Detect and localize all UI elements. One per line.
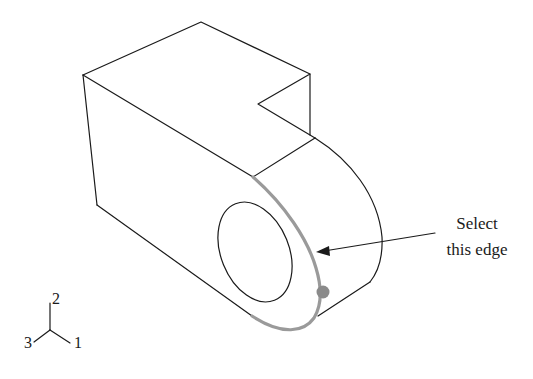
arrowhead-icon bbox=[316, 246, 330, 256]
axis-triad: 2 1 3 bbox=[24, 290, 82, 351]
callout-text-line1: Select bbox=[456, 214, 498, 233]
tangent-edge bbox=[253, 138, 315, 177]
selection-point-icon bbox=[317, 286, 330, 299]
callout: Select this edge bbox=[316, 214, 507, 259]
bottom-edge bbox=[97, 205, 252, 316]
triad-label-3: 3 bbox=[24, 334, 32, 351]
hole-edge bbox=[204, 191, 306, 313]
outer-back-arc bbox=[315, 138, 382, 282]
part-geometry bbox=[83, 22, 382, 316]
selected-outer-arc[interactable] bbox=[252, 177, 320, 330]
left-vertical-edge bbox=[83, 75, 97, 205]
callout-arrow-line bbox=[324, 233, 435, 251]
front-top-edge bbox=[83, 75, 253, 177]
triad-axis-3 bbox=[34, 330, 50, 342]
callout-text-line2: this edge bbox=[447, 240, 508, 259]
part-diagram: Select this edge 2 1 3 bbox=[0, 0, 533, 379]
triad-axis-1 bbox=[50, 330, 70, 343]
triad-label-1: 1 bbox=[74, 334, 82, 351]
triad-label-2: 2 bbox=[52, 290, 60, 307]
top-face-edge bbox=[83, 22, 315, 138]
